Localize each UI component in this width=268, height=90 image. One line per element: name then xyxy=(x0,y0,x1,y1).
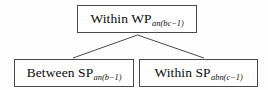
node-between-sp-subscript: an(b−1) xyxy=(94,73,122,82)
edge-root-to-within-sp xyxy=(138,35,205,58)
node-within-wp-text: Within WP xyxy=(90,11,151,26)
node-within-sp-label: Within SPabn(c−1) xyxy=(154,66,242,80)
node-within-sp: Within SPabn(c−1) xyxy=(139,59,258,87)
node-within-sp-text: Within SP xyxy=(154,65,210,80)
node-within-sp-subscript: abn(c−1) xyxy=(211,73,243,82)
node-between-sp: Between SPan(b−1) xyxy=(14,59,134,87)
node-between-sp-label: Between SPan(b−1) xyxy=(27,66,122,80)
node-within-wp: Within WPan(bc−1) xyxy=(77,5,197,33)
hierarchy-diagram: Within WPan(bc−1) Between SPan(b−1) With… xyxy=(0,0,268,90)
edge-root-to-between-sp xyxy=(73,35,138,58)
node-between-sp-text: Between SP xyxy=(27,65,94,80)
node-within-wp-subscript: an(bc−1) xyxy=(152,19,184,28)
node-within-wp-label: Within WPan(bc−1) xyxy=(90,12,183,26)
